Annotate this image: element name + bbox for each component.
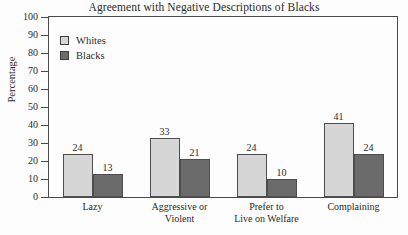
chart-screenshot: Agreement with Negative Descriptions of … bbox=[0, 0, 408, 235]
y-axis-tick-label: 30 bbox=[12, 138, 38, 148]
y-axis-tick-label: 40 bbox=[12, 120, 38, 130]
y-axis-tick bbox=[41, 179, 48, 180]
bar-group: 4124 bbox=[324, 17, 384, 197]
x-axis-category-label: Prefer toLive on Welfare bbox=[223, 201, 310, 224]
y-axis-tick bbox=[41, 107, 48, 108]
bar-whites-3[interactable] bbox=[324, 123, 354, 197]
x-axis-category-line: Complaining bbox=[310, 201, 397, 213]
chart-legend: WhitesBlacks bbox=[60, 33, 106, 63]
legend-swatch-icon bbox=[60, 36, 69, 45]
y-axis-tick-label: 100 bbox=[12, 12, 38, 22]
bar-blacks-0[interactable] bbox=[93, 174, 123, 197]
bar-group: 3321 bbox=[150, 17, 210, 197]
y-axis-tick-label: 50 bbox=[12, 102, 38, 112]
legend-item-blacks[interactable]: Blacks bbox=[60, 48, 106, 63]
bar-value-label: 24 bbox=[232, 142, 272, 153]
y-axis-tick bbox=[41, 71, 48, 72]
bar-value-label: 21 bbox=[175, 147, 215, 158]
x-axis-category-line: Prefer to bbox=[223, 201, 310, 213]
y-axis-tick bbox=[41, 53, 48, 54]
y-axis-tick-label: 70 bbox=[12, 66, 38, 76]
y-axis-tick bbox=[41, 197, 48, 198]
y-axis-tick-label: 60 bbox=[12, 84, 38, 94]
y-axis-tick-label: 0 bbox=[12, 192, 38, 202]
bar-blacks-3[interactable] bbox=[354, 154, 384, 197]
x-axis-category-line: Lazy bbox=[49, 201, 136, 213]
x-axis-category-label: Complaining bbox=[310, 201, 397, 213]
y-axis-tick-label: 20 bbox=[12, 156, 38, 166]
y-axis-tick bbox=[41, 143, 48, 144]
y-axis-tick-label: 90 bbox=[12, 30, 38, 40]
chart-title: Agreement with Negative Descriptions of … bbox=[0, 1, 408, 13]
bar-value-label: 13 bbox=[88, 162, 128, 173]
x-axis-category-line: Aggressive or bbox=[136, 201, 223, 213]
y-axis-tick-label: 80 bbox=[12, 48, 38, 58]
y-axis-tick bbox=[41, 161, 48, 162]
bar-group: 2410 bbox=[237, 17, 297, 197]
y-axis-tick bbox=[41, 89, 48, 90]
legend-item-label: Blacks bbox=[76, 50, 105, 61]
y-axis-tick-label: 10 bbox=[12, 174, 38, 184]
bar-blacks-2[interactable] bbox=[267, 179, 297, 197]
bar-value-label: 41 bbox=[319, 111, 359, 122]
legend-swatch-icon bbox=[60, 51, 69, 60]
bar-value-label: 10 bbox=[262, 167, 302, 178]
bar-value-label: 33 bbox=[145, 126, 185, 137]
y-axis-tick bbox=[41, 35, 48, 36]
x-axis-category-line: Live on Welfare bbox=[223, 213, 310, 225]
legend-item-label: Whites bbox=[76, 35, 106, 46]
bar-whites-0[interactable] bbox=[63, 154, 93, 197]
x-axis-category-label: Aggressive orViolent bbox=[136, 201, 223, 224]
x-axis-category-label: Lazy bbox=[49, 201, 136, 213]
legend-item-whites[interactable]: Whites bbox=[60, 33, 106, 48]
y-axis-tick bbox=[41, 17, 48, 18]
x-axis-category-line: Violent bbox=[136, 213, 223, 225]
bar-value-label: 24 bbox=[349, 142, 389, 153]
y-axis-tick bbox=[41, 125, 48, 126]
bar-value-label: 24 bbox=[58, 142, 98, 153]
bar-blacks-1[interactable] bbox=[180, 159, 210, 197]
